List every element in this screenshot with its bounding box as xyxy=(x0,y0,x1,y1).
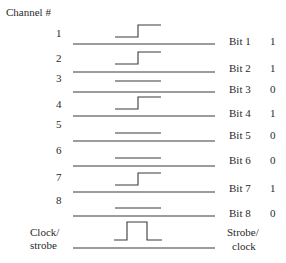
channel-number: 5 xyxy=(56,118,62,130)
clock-label-left-1: Clock/ xyxy=(30,226,60,238)
bit-label: Bit 2 xyxy=(229,62,251,74)
channel-number: 8 xyxy=(56,194,62,206)
bit-label: Bit 3 xyxy=(229,83,251,95)
bit-label: Bit 7 xyxy=(229,182,251,194)
bit-value: 0 xyxy=(270,129,276,141)
channel-number: 7 xyxy=(56,171,62,183)
rising-edge-waveform xyxy=(115,52,161,64)
bit-value: 1 xyxy=(270,107,276,119)
channel-number: 4 xyxy=(56,98,62,110)
clock-row: Clock/ strobe Strobe/ clock xyxy=(30,222,260,252)
rising-edge-waveform xyxy=(115,173,161,185)
channel-row: 7Bit 71 xyxy=(56,171,276,194)
rising-edge-waveform xyxy=(115,25,161,37)
channel-row: 5Bit 50 xyxy=(56,118,276,141)
channel-header: Channel # xyxy=(6,6,51,18)
clock-label-right-1: Strobe/ xyxy=(227,226,260,238)
bit-value: 1 xyxy=(270,35,276,47)
bit-label: Bit 1 xyxy=(229,35,251,47)
channel-row: 1Bit 11 xyxy=(56,25,276,47)
channel-number: 1 xyxy=(56,27,62,39)
channel-row: 4Bit 41 xyxy=(56,97,276,119)
bit-value: 1 xyxy=(270,182,276,194)
bit-label: Bit 6 xyxy=(229,154,251,166)
channel-number: 6 xyxy=(56,144,62,156)
channel-number: 2 xyxy=(56,52,62,64)
channel-row: 2Bit 21 xyxy=(56,52,276,74)
channel-row: 8Bit 80 xyxy=(56,194,276,219)
bit-value: 0 xyxy=(270,154,276,166)
clock-pulse-waveform xyxy=(114,222,162,240)
clock-label-right-2: clock xyxy=(232,240,256,252)
bit-value: 1 xyxy=(270,62,276,74)
bit-label: Bit 5 xyxy=(229,129,251,141)
channel-row: 3Bit 30 xyxy=(56,72,276,95)
clock-label-left-2: strobe xyxy=(30,239,57,251)
channel-number: 3 xyxy=(56,72,62,84)
rising-edge-waveform xyxy=(115,97,161,109)
parallel-transfer-diagram: Channel # 1Bit 112Bit 213Bit 304Bit 415B… xyxy=(0,0,286,263)
bit-value: 0 xyxy=(270,83,276,95)
bit-value: 0 xyxy=(270,207,276,219)
channel-row: 6Bit 60 xyxy=(56,144,276,166)
bit-label: Bit 4 xyxy=(229,107,251,119)
bit-label: Bit 8 xyxy=(229,207,251,219)
